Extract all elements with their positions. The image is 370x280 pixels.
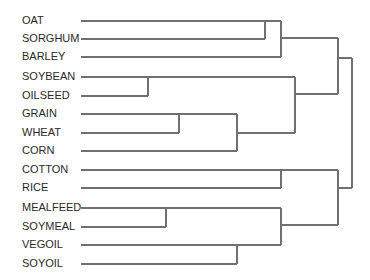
leaf-label-vegoil: VEGOIL — [22, 238, 63, 250]
leaf-label-grain: GRAIN — [22, 107, 57, 119]
leaf-label-wheat: WHEAT — [22, 126, 61, 138]
leaf-label-soyoil: SOYOIL — [22, 257, 63, 269]
leaf-label-mealfeed: MEALFEED — [22, 201, 81, 213]
leaf-label-sorghum: SORGHUM — [22, 32, 79, 44]
leaf-label-oat: OAT — [22, 14, 44, 26]
leaf-label-soymeal: SOYMEAL — [22, 220, 75, 232]
dendrogram-branches — [81, 21, 352, 264]
leaf-label-corn: CORN — [22, 144, 54, 156]
leaf-label-rice: RICE — [22, 181, 48, 193]
leaf-label-soybean: SOYBEAN — [22, 70, 75, 82]
leaf-label-cotton: COTTON — [22, 163, 68, 175]
leaf-label-oilseed: OILSEED — [22, 89, 70, 101]
leaf-label-barley: BARLEY — [22, 50, 65, 62]
